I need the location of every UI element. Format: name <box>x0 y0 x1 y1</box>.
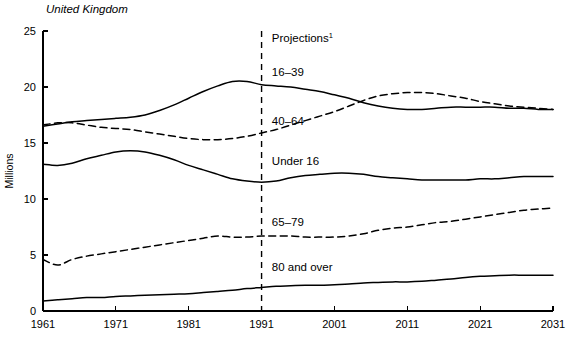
x-tick-label-2001: 2001 <box>322 318 346 330</box>
y-tick-label-5: 5 <box>30 249 36 261</box>
chart-page: 0510152025196119711981199120012011202120… <box>0 0 580 340</box>
series-line-80-and-over <box>43 275 553 301</box>
annotation-projections: Projections1 <box>272 31 333 44</box>
y-tick-label-0: 0 <box>30 305 36 317</box>
population-projection-chart: 0510152025196119711981199120012011202120… <box>0 0 580 340</box>
y-tick-label-25: 25 <box>24 25 36 37</box>
x-tick-label-1991: 1991 <box>249 318 273 330</box>
x-tick-label-2021: 2021 <box>468 318 492 330</box>
x-tick-label-2011: 2011 <box>395 318 419 330</box>
x-tick-label-1961: 1961 <box>31 318 55 330</box>
y-tick-label-15: 15 <box>24 137 36 149</box>
annotation-16-39: 16–39 <box>272 66 304 78</box>
annotation-65-79: 65–79 <box>272 216 304 228</box>
y-axis-title: Millions <box>3 153 15 188</box>
annotation-80-and-over: 80 and over <box>272 261 333 273</box>
y-tick-label-20: 20 <box>24 81 36 93</box>
x-tick-label-2031: 2031 <box>541 318 565 330</box>
annotation-40-64: 40–64 <box>272 115 305 127</box>
x-tick-label-1981: 1981 <box>176 318 200 330</box>
y-tick-label-10: 10 <box>24 193 36 205</box>
annotation-under-16: Under 16 <box>272 155 319 167</box>
region-title: United Kingdom <box>46 3 128 15</box>
x-tick-label-1971: 1971 <box>104 318 128 330</box>
